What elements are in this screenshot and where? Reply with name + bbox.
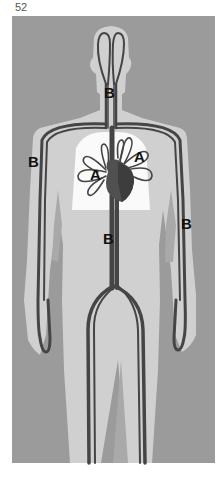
- label-b-abdomen: B: [103, 230, 114, 247]
- circulatory-diagram: B B A A B B: [0, 0, 223, 480]
- label-a-right-lung: A: [134, 148, 145, 165]
- label-a-left-lung: A: [90, 166, 101, 183]
- label-b-left-arm: B: [28, 153, 39, 170]
- label-b-neck: B: [104, 84, 115, 101]
- label-b-right-arm: B: [181, 215, 192, 232]
